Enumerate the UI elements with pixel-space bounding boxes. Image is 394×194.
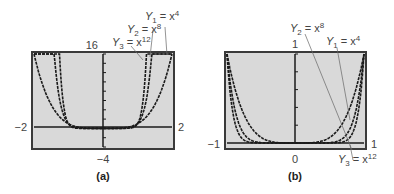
caption-b: (b) xyxy=(288,170,302,182)
xmax-label-b: 1 xyxy=(371,138,377,150)
figure: 16 −2 2 −4 (a) Y1 = x4 Y2 = x8 Y3 = x12 … xyxy=(0,0,394,194)
legend-y3-b: Y3 = x12 xyxy=(338,152,377,168)
ymin-label-b: 0 xyxy=(292,153,298,165)
legend-y3-a: Y3 = x12 xyxy=(112,35,151,51)
ymax-label-a: 16 xyxy=(86,39,98,51)
caption-a: (a) xyxy=(96,170,110,182)
panel-a: 16 −2 2 −4 (a) Y1 = x4 Y2 = x8 Y3 = x12 xyxy=(14,9,184,182)
panel-b: 1 −1 1 0 (b) Y1 = x4 Y2 = x8 Y3 = x12 xyxy=(207,21,377,182)
legend-y1-b: Y1 = x4 xyxy=(326,34,361,50)
legend-y2-b: Y2 = x8 xyxy=(290,21,325,37)
ymax-label-b: 1 xyxy=(292,38,298,50)
leader-y1-a xyxy=(165,27,167,55)
ymin-label-a: −4 xyxy=(97,153,110,165)
xmin-label-a: −2 xyxy=(14,121,27,133)
xmax-label-a: 2 xyxy=(178,121,184,133)
xmin-label-b: −1 xyxy=(207,138,220,150)
